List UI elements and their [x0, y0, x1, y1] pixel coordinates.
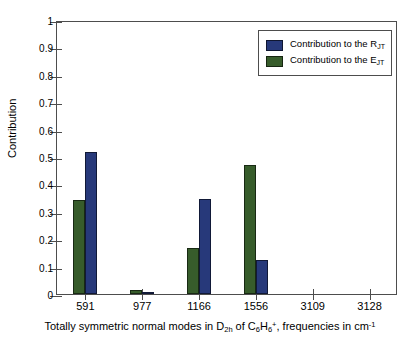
bar-e-jt	[130, 290, 142, 294]
y-tick-mark-inner	[57, 241, 62, 242]
y-tick-mark-inner	[57, 49, 62, 50]
y-tick-label: 1	[47, 17, 53, 27]
x-tick-mark-inner	[313, 289, 314, 294]
legend-swatch-e-jt	[266, 56, 283, 67]
y-tick-label: 0.2	[39, 236, 53, 246]
x-tick-label: 1166	[187, 300, 211, 312]
y-tick-mark-inner	[57, 269, 62, 270]
x-tick-label: 3109	[301, 300, 325, 312]
x-tick-label: 591	[76, 300, 94, 312]
y-tick-label: 0.7	[39, 99, 53, 109]
bar-r-jt	[85, 152, 97, 294]
x-tick-label: 977	[133, 300, 151, 312]
chart-legend: Contribution to the RJT Contribution to …	[258, 30, 392, 76]
bar-e-jt	[244, 165, 256, 294]
y-tick-mark-inner	[57, 159, 62, 160]
x-axis-title: Totally symmetric normal modes in D2h of…	[0, 318, 420, 336]
y-tick-label: 0.8	[39, 72, 53, 82]
y-tick-mark-inner	[57, 214, 62, 215]
y-tick-label: 0	[47, 291, 53, 301]
y-tick-label: 0.6	[39, 127, 53, 137]
y-tick-mark-inner	[57, 132, 62, 133]
y-tick-mark-inner	[57, 186, 62, 187]
x-tick-label: 3128	[357, 300, 381, 312]
bar-r-jt	[142, 292, 154, 294]
y-tick-mark-inner	[57, 296, 62, 297]
legend-swatch-r-jt	[266, 40, 283, 51]
legend-label-e-jt: Contribution to the EJT	[290, 54, 384, 68]
y-tick-label: 0.3	[39, 209, 53, 219]
y-tick-label: 0.1	[39, 264, 53, 274]
legend-label-r-jt: Contribution to the RJT	[290, 38, 385, 52]
bar-e-jt	[73, 200, 85, 294]
y-tick-mark-inner	[57, 77, 62, 78]
y-tick-mark-inner	[57, 22, 62, 23]
x-tick-label: 1556	[244, 300, 268, 312]
y-tick-mark-inner	[57, 104, 62, 105]
bar-r-jt	[199, 199, 211, 294]
chart-figure: Contribution 00.10.20.30.40.50.60.70.80.…	[0, 0, 420, 340]
bar-e-jt	[187, 248, 199, 294]
y-tick-label: 0.4	[39, 181, 53, 191]
y-axis-title: Contribution	[6, 99, 18, 158]
y-tick-label: 0.9	[39, 44, 53, 54]
bar-r-jt	[256, 260, 268, 294]
y-tick-label: 0.5	[39, 154, 53, 164]
x-tick-mark-inner	[370, 289, 371, 294]
legend-item-r-jt: Contribution to the RJT	[266, 37, 385, 53]
legend-item-e-jt: Contribution to the EJT	[266, 53, 385, 69]
